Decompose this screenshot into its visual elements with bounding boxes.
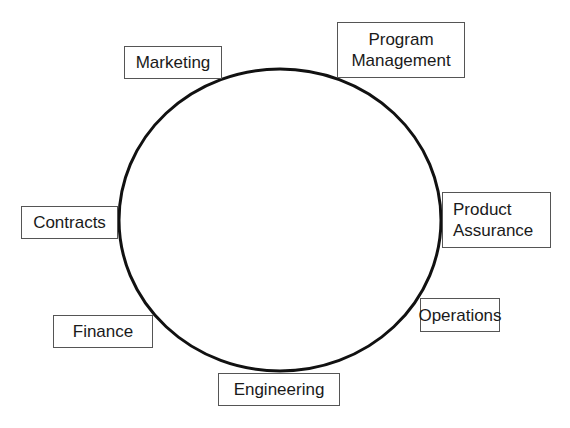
node-label-line-2: Management: [351, 50, 450, 71]
node-label-line-2: Assurance: [453, 220, 533, 241]
node-contracts: Contracts: [21, 206, 118, 239]
node-label: Marketing: [136, 52, 211, 73]
node-finance: Finance: [53, 315, 153, 348]
node-label: Operations: [418, 305, 501, 326]
circle-outline: [119, 69, 441, 371]
node-label: Engineering: [234, 379, 325, 400]
node-label: Contracts: [33, 212, 106, 233]
node-label-line-1: Program: [368, 29, 433, 50]
node-program-management: Program Management: [337, 22, 465, 78]
node-engineering: Engineering: [218, 373, 340, 406]
node-operations: Operations: [420, 298, 500, 332]
organization-diagram: Marketing Program Management Contracts P…: [0, 0, 570, 428]
node-product-assurance: Product Assurance: [442, 192, 551, 248]
node-label: Finance: [73, 321, 133, 342]
node-marketing: Marketing: [124, 46, 222, 79]
node-label-line-1: Product: [453, 199, 512, 220]
